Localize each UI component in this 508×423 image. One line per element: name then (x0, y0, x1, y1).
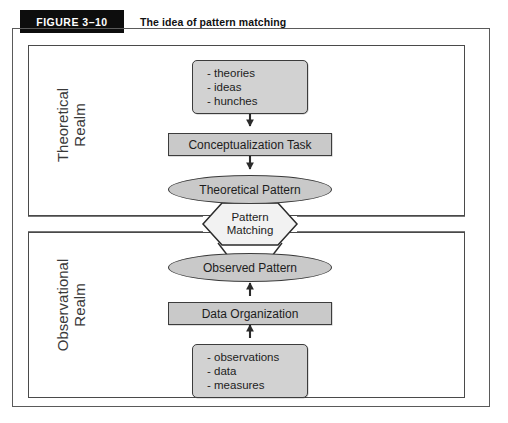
observation-inputs-box: - observations - data - measures (192, 344, 308, 398)
theory-inputs-box: - theories - ideas - hunches (192, 60, 308, 114)
observation-input-item: - measures (207, 378, 307, 392)
pattern-matching-line1: Pattern (231, 211, 268, 225)
figure-canvas: FIGURE 3–10 The idea of pattern matching… (0, 0, 508, 423)
pattern-matching-node: Pattern Matching (203, 203, 297, 245)
observational-realm-label: Observational Realm (54, 230, 88, 380)
observation-input-item: - observations (207, 350, 307, 364)
observed-pattern-ellipse: Observed Pattern (168, 253, 332, 282)
theory-input-item: - hunches (207, 94, 307, 108)
theory-input-item: - ideas (207, 80, 307, 94)
theory-input-item: - theories (207, 66, 307, 80)
pattern-matching-label: Pattern Matching (203, 203, 297, 245)
theoretical-pattern-ellipse: Theoretical Pattern (168, 175, 332, 204)
pattern-matching-line2: Matching (227, 224, 274, 238)
conceptualization-task-box: Conceptualization Task (168, 133, 332, 156)
observation-input-item: - data (207, 364, 307, 378)
theoretical-realm-label: Theoretical Realm (54, 55, 88, 195)
data-organization-box: Data Organization (168, 302, 332, 325)
